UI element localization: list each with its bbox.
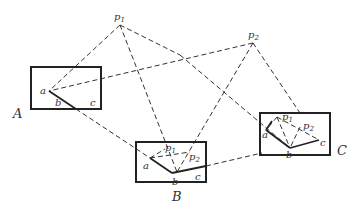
frame-C-segment-ab: [266, 130, 290, 148]
frame-B: a b c p1 p2 B: [136, 142, 206, 204]
frame-A-segment-ab: [49, 91, 76, 109]
frame-C-segment-bc: [290, 140, 319, 148]
line-p2-C: [253, 43, 300, 113]
line-to-bC: [180, 55, 290, 148]
frame-B-line-a-p1: [150, 149, 165, 158]
frame-A-label-b: b: [55, 97, 61, 108]
frame-C-label-a: a: [262, 129, 268, 140]
frame-B-segment-ab: [150, 158, 172, 173]
frame-C-label-b: b: [286, 149, 292, 160]
frame-B-label-a: a: [143, 160, 149, 171]
frame-C-name: C: [337, 143, 347, 158]
point-p2-label: p2: [248, 29, 259, 42]
frame-B-segment-bc: [172, 166, 206, 173]
frame-A-label-c: c: [90, 97, 96, 108]
frame-C-label-c: c: [320, 137, 326, 148]
frame-B-label-p1: p1: [165, 142, 176, 155]
frame-C: a b c p1 p2 C: [260, 111, 347, 160]
line-p1-aA: [49, 25, 120, 91]
frame-B-label-c: c: [195, 171, 201, 182]
line-p1-right: [120, 25, 180, 55]
line-B-C: [206, 153, 262, 166]
line-A-B: [76, 109, 150, 158]
frame-B-name: B: [171, 189, 182, 204]
frame-C-label-p2: p2: [303, 120, 314, 133]
diagram-canvas: a b c A a b c p1 p2 B a b c p1 p2 C p1 p…: [0, 0, 359, 223]
frame-A-label-a: a: [40, 85, 46, 96]
frame-A-name: A: [12, 106, 22, 121]
frame-B-label-b: b: [172, 176, 178, 187]
frame-A: a b c A: [12, 67, 101, 121]
point-p1-label: p1: [114, 11, 125, 24]
frame-B-label-p2: p2: [189, 151, 200, 164]
